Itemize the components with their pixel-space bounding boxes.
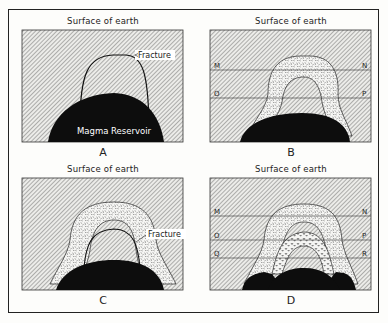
- horizon-label-o: O: [214, 90, 220, 98]
- fracture-callout: Fracture: [148, 230, 181, 239]
- horizon-label-n: N: [362, 62, 367, 70]
- reservoir-label: Magma Reservoir: [77, 126, 152, 136]
- panel-letter: A: [18, 146, 188, 159]
- panel-letter: B: [206, 146, 376, 159]
- horizon-label-p: P: [362, 232, 366, 240]
- panel-a: Surface of earth Magma Reservoir Fractur…: [18, 14, 188, 164]
- panel-letter: C: [18, 294, 188, 307]
- panel-d: Surface of earth M N O P Q R D: [206, 162, 376, 312]
- panel-b: Surface of earth M N O P B: [206, 14, 376, 164]
- horizon-label-p: P: [362, 90, 366, 98]
- horizon-label-m: M: [214, 62, 220, 70]
- fracture-callout: Fracture: [138, 51, 171, 60]
- horizon-label-m: M: [214, 208, 220, 216]
- horizon-label-q: Q: [214, 250, 220, 258]
- panel-c: Surface of earth Fracture C: [18, 162, 188, 312]
- cross-section-a: Magma Reservoir Fracture: [18, 14, 188, 164]
- cross-section-b: M N O P: [206, 14, 376, 164]
- horizon-label-o: O: [214, 232, 220, 240]
- horizon-label-n: N: [362, 208, 367, 216]
- horizon-label-r: R: [362, 250, 367, 258]
- cross-section-d: M N O P Q R: [206, 162, 376, 312]
- panel-letter: D: [206, 294, 376, 307]
- cross-section-c: Fracture: [18, 162, 188, 312]
